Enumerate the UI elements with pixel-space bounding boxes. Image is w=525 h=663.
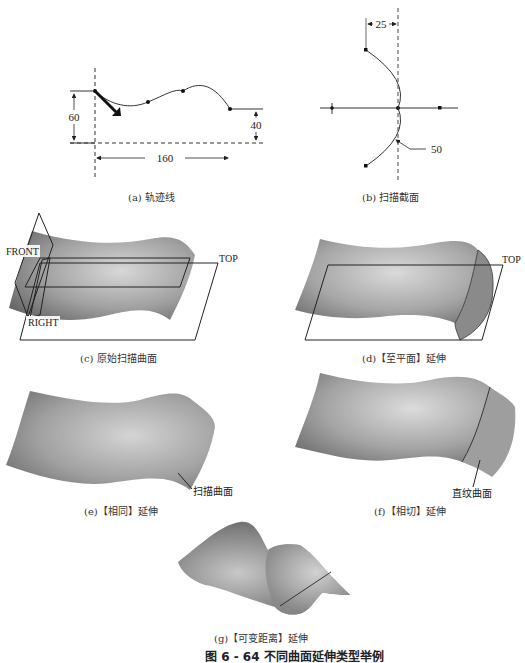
caption-c: (c) 原始扫描曲面	[80, 350, 157, 365]
caption-e: (e)【相同】延伸	[84, 503, 158, 518]
to-plane-drawing: TOP	[270, 205, 525, 365]
caption-d: (d)【至平面】延伸	[362, 350, 446, 365]
caption-f: (f)【相切】延伸	[374, 503, 446, 518]
caption-b: (b) 扫描截面	[362, 189, 419, 204]
panel-e-same: 扫描曲面 (e)【相同】延伸	[0, 365, 270, 515]
panel-d-to-plane: TOP (d)【至平面】延伸	[270, 205, 525, 365]
same-extension-drawing: 扫描曲面	[0, 365, 270, 515]
label-top-d: TOP	[502, 254, 521, 265]
panel-c-original-surface: FRONT TOP RIGHT (c) 原始扫描曲面	[0, 205, 270, 365]
dim-offset: 25	[376, 18, 388, 30]
caption-g: (g)【可变距离】延伸	[214, 630, 308, 645]
dim-radius: 50	[431, 143, 443, 155]
original-surface-drawing: FRONT TOP RIGHT	[0, 205, 270, 365]
panel-f-tangent: 直纹曲面 (f)【相切】延伸	[270, 365, 525, 515]
panel-a-trajectory: 60 40 160 (a) 轨迹线	[0, 0, 270, 205]
label-top: TOP	[219, 253, 238, 264]
label-front: FRONT	[6, 246, 39, 257]
section-drawing: 25 50	[270, 0, 525, 205]
label-right: RIGHT	[28, 317, 59, 328]
figure-title: 图 6 - 64 不同曲面延伸类型举例	[205, 647, 384, 663]
callout-sweep-surface: 扫描曲面	[193, 485, 233, 497]
dim-height-right: 40	[251, 119, 263, 131]
trajectory-drawing: 60 40 160	[0, 0, 270, 205]
panel-b-section: 25 50 (b) 扫描截面	[270, 0, 525, 205]
callout-ruled-surface: 直纹曲面	[452, 487, 492, 499]
caption-a: (a) 轨迹线	[128, 189, 175, 204]
dim-height-left: 60	[69, 111, 81, 123]
panel-g-variable-distance: (g)【可变距离】延伸 图 6 - 64 不同曲面延伸类型举例	[150, 515, 380, 663]
tangent-extension-drawing: 直纹曲面	[270, 365, 525, 515]
dim-width: 160	[157, 152, 174, 164]
